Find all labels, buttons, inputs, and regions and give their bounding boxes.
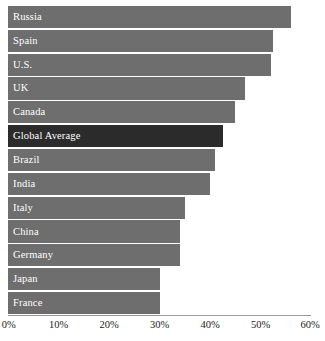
bar [8,6,291,28]
bar-row: France [8,291,311,315]
bar-category-label: India [13,179,35,190]
bar-category-label: Germany [13,250,53,261]
x-axis-tick-label: 0% [2,318,16,331]
bar-category-label: Global Average [13,131,81,142]
bar-row: UK [8,77,311,101]
horizontal-bar-chart: RussiaSpainU.S.UKCanadaGlobal AverageBra… [0,0,325,341]
bar-category-label: U.S. [13,59,32,70]
bar-category-label: China [13,226,39,237]
bar-row: Canada [8,100,311,124]
bar-row: Italy [8,196,311,220]
bar-category-label: Japan [13,274,38,285]
bar-row: China [8,220,311,244]
bar-category-label: Brazil [13,155,40,166]
bar-category-label: Italy [13,202,33,213]
x-axis-tick-label: 10% [49,318,68,331]
bar-row: India [8,172,311,196]
x-axis-tick-label: 40% [200,318,219,331]
bar-category-label: France [13,298,42,309]
x-axis-tick-labels: 0%10%20%30%40%50%60% [0,318,325,338]
bar [8,30,273,52]
x-axis-tick-label: 60% [300,318,319,331]
bar-row: Global Average [8,124,311,148]
bar [8,197,185,219]
x-axis-tick-label: 50% [251,318,270,331]
bar-category-label: Russia [13,12,42,23]
plot-area: RussiaSpainU.S.UKCanadaGlobal AverageBra… [8,5,311,315]
bar-category-label: Spain [13,36,38,47]
x-axis-tick-label: 30% [150,318,169,331]
bar [8,54,271,76]
bar-category-label: Canada [13,107,45,118]
x-axis-tick-label: 20% [99,318,118,331]
bar-row: Spain [8,29,311,53]
bar [8,77,245,99]
bar-category-label: UK [13,83,28,94]
bar-row: Russia [8,5,311,29]
bar [8,173,210,195]
bar-row: Japan [8,267,311,291]
x-axis-line [8,315,311,316]
bar-row: Germany [8,243,311,267]
bar-row: Brazil [8,148,311,172]
bar-row: U.S. [8,53,311,77]
